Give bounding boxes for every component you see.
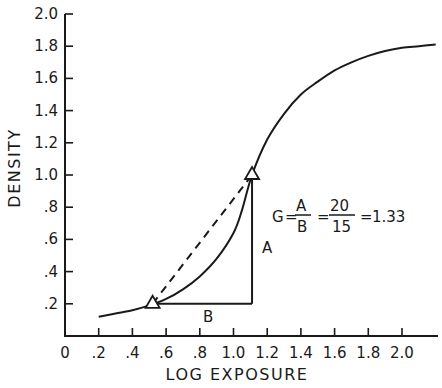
y-tick-label: 2.0 — [34, 5, 58, 23]
characteristic-curve-chart: .2.4.6.81.01.21.41.61.82.0 0.2.4.6.81.01… — [0, 0, 442, 388]
x-axis-ticks — [99, 328, 402, 336]
eq-num-20: 20 — [330, 197, 349, 215]
eq-result: 1.33 — [372, 208, 405, 226]
characteristic-curve-line — [99, 45, 436, 317]
y-tick-label: .8 — [44, 198, 58, 216]
y-axis-ticks — [65, 14, 73, 304]
y-tick-label: 1.2 — [34, 134, 58, 152]
x-tick-label: 1.4 — [289, 344, 313, 362]
y-tick-label: .2 — [44, 295, 58, 313]
y-tick-label: 1.4 — [34, 102, 58, 120]
x-tick-label: .6 — [159, 344, 173, 362]
eq-den-b: B — [297, 218, 307, 236]
y-tick-label: .6 — [44, 230, 58, 248]
label-a: A — [262, 239, 273, 257]
x-tick-label: 1.8 — [356, 344, 380, 362]
x-tick-label: .2 — [92, 344, 106, 362]
eq-equals-3: = — [360, 208, 373, 226]
y-tick-label: 1.6 — [34, 69, 58, 87]
triangle-marker-icon — [245, 167, 259, 179]
eq-den-15: 15 — [332, 218, 351, 236]
x-tick-label: .4 — [125, 344, 139, 362]
x-tick-label: 1.0 — [222, 344, 246, 362]
y-tick-label: 1.8 — [34, 37, 58, 55]
x-tick-label: 1.2 — [255, 344, 279, 362]
x-axis-title: LOG EXPOSURE — [166, 365, 309, 384]
eq-g: G — [272, 208, 284, 226]
x-axis-tick-labels: 0.2.4.6.81.01.21.41.61.82.0 — [60, 344, 414, 362]
y-axis-title: DENSITY — [5, 128, 24, 207]
y-tick-label: 1.0 — [34, 166, 58, 184]
eq-num-a: A — [296, 197, 307, 215]
label-b: B — [203, 308, 213, 326]
x-tick-label: 2.0 — [390, 344, 414, 362]
x-tick-label: 1.6 — [323, 344, 347, 362]
y-axis-tick-labels: .2.4.6.81.01.21.41.61.82.0 — [34, 5, 58, 313]
dashed-secant-line — [153, 175, 252, 304]
gamma-equation: G = A B = 20 15 = 1.33 — [272, 197, 405, 236]
x-tick-label: 0 — [60, 344, 70, 362]
y-tick-label: .4 — [44, 263, 58, 281]
eq-equals-2: = — [317, 208, 330, 226]
x-tick-label: .8 — [193, 344, 207, 362]
